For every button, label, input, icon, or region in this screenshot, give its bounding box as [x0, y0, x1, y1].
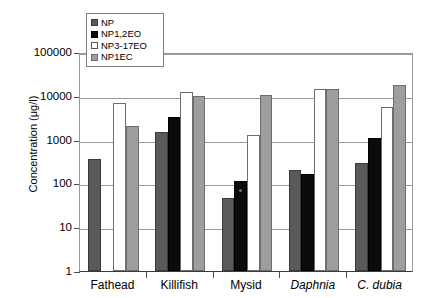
y-axis-tick-label: 10000	[0, 91, 72, 102]
bar	[381, 107, 394, 271]
bar	[168, 117, 181, 271]
y-axis-tick-label: 100	[0, 178, 72, 189]
y-axis-tick-label: 1	[0, 266, 72, 277]
legend-swatch-icon	[91, 31, 98, 38]
x-axis-category-label: Fathead	[79, 278, 146, 292]
bar	[393, 85, 406, 271]
x-axis-category-label: Daphnia	[279, 278, 346, 292]
bar	[126, 126, 139, 272]
legend-swatch-icon	[91, 19, 98, 26]
legend-item-label: NP1EC	[101, 52, 133, 62]
legend-item: NP1,2EO	[91, 29, 159, 40]
x-axis-category-label: Killifish	[146, 278, 213, 292]
legend-item-label: NP1,2EO	[101, 29, 141, 39]
bar	[301, 174, 314, 271]
legend-item: NP1EC	[91, 52, 159, 63]
bar	[155, 132, 168, 271]
bar	[260, 95, 273, 271]
y-axis-tick-label: 1000	[0, 135, 72, 146]
y-axis-tick-label: 100000	[0, 47, 72, 58]
bar	[88, 159, 101, 271]
bar	[314, 89, 327, 271]
legend-item-label: NP3-17EO	[101, 41, 147, 51]
bar-chart: Concentration (μg/l) 1000001000010001001…	[0, 0, 424, 298]
gridline	[80, 98, 412, 99]
bar	[113, 103, 126, 271]
plot-area	[79, 53, 413, 272]
bar	[326, 89, 339, 271]
bar	[289, 170, 302, 271]
bar	[355, 163, 368, 271]
bar	[247, 135, 260, 271]
bar	[193, 96, 206, 271]
bar	[222, 198, 235, 271]
x-axis-category-label: Mysid	[213, 278, 280, 292]
legend-swatch-icon	[91, 54, 98, 61]
bar	[180, 92, 193, 271]
legend-item-label: NP	[101, 18, 114, 28]
bar	[368, 138, 381, 271]
x-axis-category-label: C. dubia	[346, 278, 413, 292]
chart-legend: NPNP1,2EONP3-17EONP1EC	[86, 13, 164, 67]
y-axis-tick	[74, 272, 80, 273]
legend-item: NP	[91, 17, 159, 28]
legend-swatch-icon	[91, 42, 98, 49]
bar	[234, 181, 247, 271]
legend-item: NP3-17EO	[91, 40, 159, 51]
y-axis-tick-label: 10	[0, 222, 72, 233]
